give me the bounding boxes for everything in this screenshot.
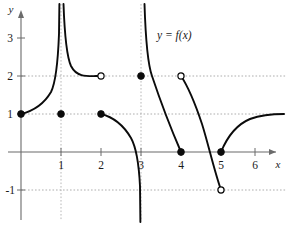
graph-svg: 1 2 3 4 5 6 3 2 1 -1 x y y = f(x)	[0, 0, 287, 225]
y-axis-arrow	[18, 10, 24, 18]
curve-branch-2	[64, 4, 102, 76]
y-tick-label-2: 2	[7, 70, 13, 82]
x-axis-label: x	[275, 158, 281, 170]
filled-point-0-1	[18, 111, 25, 118]
y-tick-labels: 3 2 1 -1	[5, 32, 15, 196]
curve-branch-5	[181, 76, 221, 190]
curve-branch-6	[221, 114, 284, 152]
x-tick-label-5: 5	[218, 159, 224, 171]
filled-point-1-1	[58, 111, 65, 118]
axes	[8, 10, 276, 220]
filled-point-4-0	[178, 149, 185, 156]
y-axis-label: y	[8, 3, 14, 15]
filled-point-3-2	[138, 73, 145, 80]
y-tick-label-3: 3	[7, 32, 13, 44]
curve-branch-3	[101, 114, 140, 222]
y-tick-label-neg1: -1	[5, 184, 15, 196]
x-tick-label-2: 2	[98, 159, 104, 171]
y-tick-label-1: 1	[7, 108, 13, 120]
open-point-4-2	[178, 73, 184, 79]
x-tick-label-1: 1	[58, 159, 64, 171]
filled-point-5-0	[218, 149, 225, 156]
x-tick-label-6: 6	[252, 159, 258, 171]
curve-branch-4	[145, 4, 182, 152]
open-point-5-neg1	[218, 187, 224, 193]
x-tick-labels: 1 2 3 4 5 6	[58, 159, 258, 171]
open-point-2-2	[98, 73, 104, 79]
curve-branch-1	[21, 4, 59, 114]
function-label: y = f(x)	[156, 29, 192, 42]
x-axis-arrow	[269, 149, 276, 155]
filled-point-2-1	[98, 111, 105, 118]
function-graph-figure: 1 2 3 4 5 6 3 2 1 -1 x y y = f(x)	[0, 0, 287, 225]
x-tick-label-4: 4	[178, 159, 184, 171]
